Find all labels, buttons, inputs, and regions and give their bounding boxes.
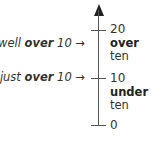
tick-label-0: 0 bbox=[110, 119, 118, 132]
region-label-over-ten: ten bbox=[110, 49, 129, 63]
tick-label-20: 20 bbox=[110, 23, 125, 36]
pointer-just-prefix: just bbox=[0, 70, 25, 84]
tick-20 bbox=[91, 30, 106, 31]
axis-arrow-up-icon bbox=[94, 4, 104, 16]
region-label-under-ten: ten bbox=[110, 98, 129, 112]
region-label-under-strong: under bbox=[110, 85, 148, 99]
pointer-well-over-10: well over 10 → bbox=[0, 37, 85, 50]
tick-10 bbox=[91, 78, 106, 79]
pointer-just-strong: over bbox=[25, 70, 54, 84]
region-label-over: over ten bbox=[110, 37, 139, 63]
region-label-under: under ten bbox=[110, 86, 148, 112]
tick-0 bbox=[91, 125, 106, 126]
pointer-well-strong: over bbox=[25, 36, 54, 50]
pointer-just-suffix: 10 → bbox=[53, 70, 85, 84]
region-label-over-strong: over bbox=[110, 36, 139, 50]
tick-label-10: 10 bbox=[110, 72, 125, 85]
pointer-well-suffix: 10 → bbox=[53, 36, 85, 50]
pointer-well-prefix: well bbox=[0, 36, 25, 50]
pointer-just-over-10: just over 10 → bbox=[0, 71, 85, 84]
vertical-axis bbox=[98, 10, 99, 126]
